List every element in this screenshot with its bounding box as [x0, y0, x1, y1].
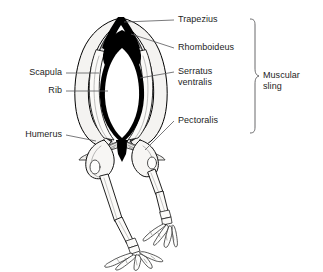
diagram-page: Trapezius Rhomboideus Serratus ventralis… — [0, 0, 323, 272]
right-carpus — [160, 210, 172, 225]
left-foot — [105, 252, 163, 271]
bracket-label-line2: sling — [263, 81, 282, 92]
right-foot — [143, 224, 177, 247]
label-pectoralis: Pectoralis — [178, 115, 218, 126]
label-rib: Rib — [0, 85, 62, 96]
right-humerus — [148, 169, 163, 194]
left-humerus — [100, 174, 122, 221]
left-carpus — [126, 238, 140, 254]
label-trapezius: Trapezius — [178, 14, 218, 25]
sling-apex — [116, 140, 128, 162]
muscular-sling-bracket — [250, 19, 259, 133]
bracket-label-line1: Muscular — [263, 70, 300, 81]
right-forearm — [156, 191, 168, 213]
label-humerus: Humerus — [0, 129, 62, 140]
label-serratus-ventralis-line2: ventralis — [178, 77, 212, 88]
label-scapula: Scapula — [0, 67, 62, 78]
label-serratus-ventralis-line1: Serratus — [178, 66, 212, 77]
label-rhomboideus: Rhomboideus — [178, 42, 234, 53]
skeleton-group — [75, 17, 178, 270]
